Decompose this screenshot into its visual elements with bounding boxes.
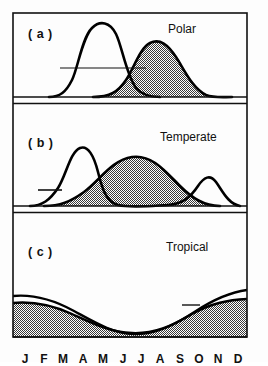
panel-a-plot	[49, 23, 232, 97]
panel-title-temperate: Temperate	[160, 130, 217, 144]
panel-tag-c: ( c )	[28, 245, 53, 259]
month-label-3: A	[79, 352, 88, 366]
panel-title-polar: Polar	[168, 22, 196, 36]
month-label-6: J	[138, 352, 145, 366]
month-label-10: N	[214, 352, 223, 366]
panel-b-plot	[30, 148, 240, 207]
panel-title-tropical: Tropical	[166, 240, 208, 254]
month-label-1: F	[40, 352, 47, 366]
month-label-0: J	[22, 352, 29, 366]
panel-tag-b: ( b )	[28, 136, 53, 150]
month-label-8: S	[176, 352, 184, 366]
month-label-4: M	[98, 352, 108, 366]
month-label-7: A	[156, 352, 165, 366]
month-label-11: D	[234, 352, 243, 366]
panel-c-plot	[13, 290, 247, 337]
panel-tag-a: ( a )	[28, 27, 53, 41]
month-label-2: M	[58, 352, 68, 366]
panel-a-hatched-area	[93, 41, 232, 97]
month-label-9: O	[194, 352, 203, 366]
month-label-5: J	[120, 352, 127, 366]
